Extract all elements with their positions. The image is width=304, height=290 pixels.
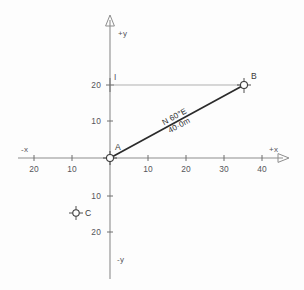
point-c-marker[interactable] — [69, 206, 83, 220]
x-tick-label-10: 10 — [143, 164, 153, 174]
axis-group — [18, 20, 283, 279]
point-b-marker[interactable] — [237, 78, 251, 93]
x-tick-label-30: 30 — [219, 164, 229, 174]
point-b-circle — [241, 82, 248, 89]
negative-x-axis-label: -x — [21, 145, 28, 154]
point-c-label: C — [85, 208, 91, 218]
point-a-circle — [107, 155, 114, 162]
coordinate-diagram: +y -y +x -x 10 20 30 40 10 20 10 20 10 2… — [0, 0, 304, 290]
diagram-canvas: +y -y +x -x 10 20 30 40 10 20 10 20 10 2… — [0, 0, 304, 290]
projection-tick-label: I — [114, 72, 117, 82]
positive-x-axis-label: +x — [269, 145, 278, 154]
x-tick-label-neg-20: 20 — [29, 164, 39, 174]
y-tick-label-neg-20: 20 — [91, 227, 101, 237]
point-a-marker[interactable] — [103, 151, 117, 165]
point-c-circle — [73, 210, 79, 216]
negative-y-axis-label: -y — [117, 255, 124, 264]
y-tick-label-20: 20 — [91, 80, 101, 90]
y-tick-label-10: 10 — [91, 116, 101, 126]
y-tick-label-neg-10: 10 — [91, 191, 101, 201]
point-b-label: B — [251, 71, 257, 81]
x-tick-label-20: 20 — [181, 164, 191, 174]
positive-y-axis-label: +y — [118, 29, 127, 38]
point-a-label: A — [115, 142, 121, 152]
survey-line-annotation-group: N 60°E 40·0m — [161, 106, 193, 135]
x-tick-label-neg-10: 10 — [67, 164, 77, 174]
x-tick-label-40: 40 — [257, 164, 267, 174]
